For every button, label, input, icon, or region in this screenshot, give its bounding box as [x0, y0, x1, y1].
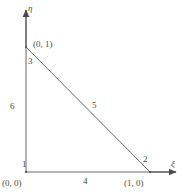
node-label-3: 3 — [28, 57, 33, 66]
edge-label-hypotenuse: 5 — [92, 101, 97, 110]
triangle-element-diagram: (0, 0) (1, 0) (0, 1) 1 2 3 4 5 6 ξ η — [0, 0, 188, 192]
node-label-2: 2 — [143, 155, 148, 164]
coordinate-label-y-unit: (0, 1) — [33, 40, 53, 49]
eta-axis-label: η — [28, 4, 32, 13]
vertex-node-3 — [25, 46, 27, 48]
edge-label-left: 6 — [10, 102, 15, 111]
vertex-node-1 — [25, 171, 27, 173]
coordinate-label-x-unit: (1, 0) — [124, 179, 144, 188]
xi-axis-label: ξ — [171, 160, 175, 169]
edge-label-bottom: 4 — [83, 177, 88, 186]
triangle-edge-hypotenuse — [26, 47, 150, 172]
vertex-node-2 — [149, 171, 151, 173]
node-label-1: 1 — [22, 160, 27, 169]
coordinate-label-origin: (0, 0) — [2, 179, 22, 188]
diagram-canvas — [0, 0, 188, 192]
